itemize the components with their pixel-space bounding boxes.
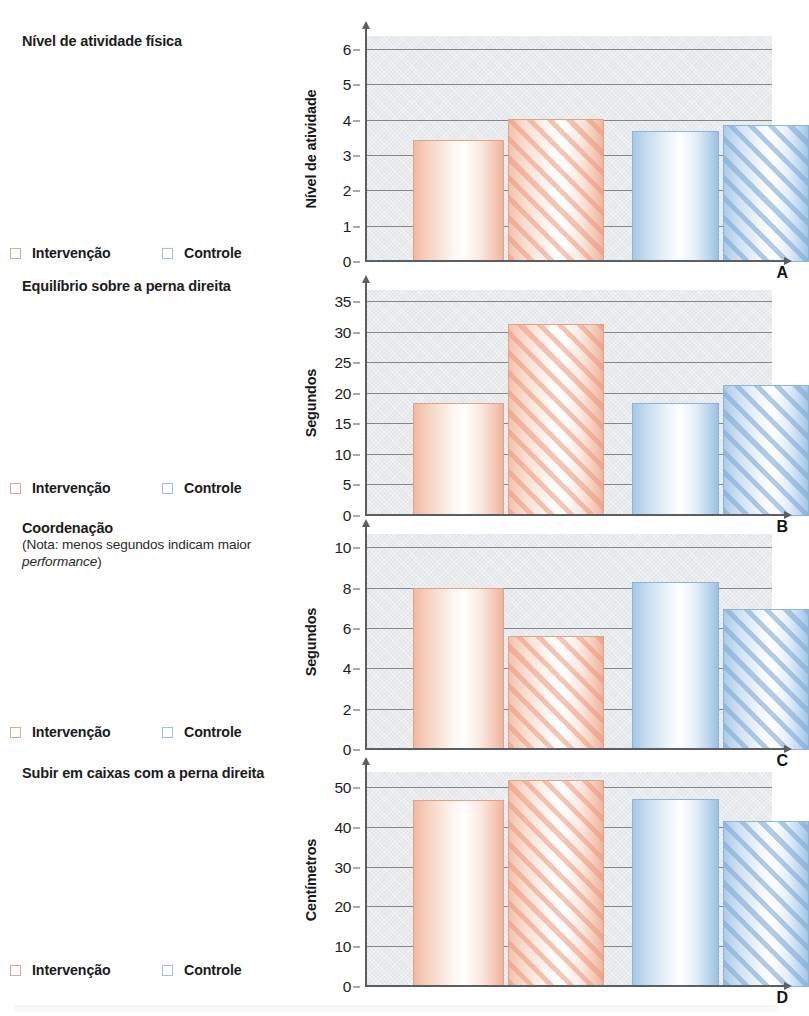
legend-a: Intervenção Controle xyxy=(10,245,300,261)
panel-title-c-text: Coordenação xyxy=(22,520,113,536)
y-tick-mark xyxy=(353,947,360,948)
y-tick-label: 35 xyxy=(335,293,351,311)
gridline xyxy=(366,84,772,85)
y-tick-mark xyxy=(353,669,360,670)
legend-swatch-intervention-icon xyxy=(10,248,21,259)
bar-intervenção-solid xyxy=(413,800,504,987)
y-tick-mark xyxy=(353,827,360,828)
legend-swatch-intervention-icon xyxy=(10,483,21,494)
y-tick-mark xyxy=(353,709,360,710)
legend-entry-control-d: Controle xyxy=(162,962,242,978)
y-axis-line xyxy=(365,27,367,262)
x-axis-line xyxy=(365,514,786,516)
legend-entry-intervention-d: Intervenção xyxy=(10,962,162,978)
bar-intervenção-solid xyxy=(413,403,504,516)
plot-area xyxy=(366,772,772,987)
panel-note-c-emphasis: performance xyxy=(22,554,97,569)
y-tick-label: 2 xyxy=(343,182,351,200)
y-tick-mark xyxy=(353,588,360,589)
y-axis-label: Segundos xyxy=(300,290,322,516)
y-tick-mark xyxy=(353,85,360,86)
chart-panel-a: Nível de atividade0123456A xyxy=(296,36,788,262)
y-tick-label: 6 xyxy=(343,620,351,638)
y-tick-label: 0 xyxy=(343,978,351,996)
y-tick-mark xyxy=(353,987,360,988)
y-tick-label: 30 xyxy=(335,859,351,877)
y-tick-mark xyxy=(353,907,360,908)
y-tick-mark xyxy=(353,628,360,629)
legend-entry-control-b: Controle xyxy=(162,480,242,496)
bar-controle-hatch xyxy=(723,125,808,262)
panel-letter-a: A xyxy=(776,264,788,282)
plot-area xyxy=(366,290,772,516)
y-tick-mark xyxy=(353,332,360,333)
legend-entry-control-a: Controle xyxy=(162,245,242,261)
y-axis-line xyxy=(365,525,367,750)
y-tick-label: 30 xyxy=(335,324,351,342)
legend-swatch-intervention-icon xyxy=(10,965,21,976)
legend-swatch-control-icon xyxy=(162,248,173,259)
legend-label-control-b: Controle xyxy=(184,480,242,496)
y-tick-mark xyxy=(353,302,360,303)
y-tick-label: 0 xyxy=(343,253,351,271)
y-tick-mark xyxy=(353,424,360,425)
panel-title-b: Equilíbrio sobre a perna direita xyxy=(22,277,290,295)
bar-intervenção-hatch xyxy=(508,636,603,750)
y-axis-line xyxy=(365,763,367,987)
y-tick-label: 40 xyxy=(335,819,351,837)
gridline xyxy=(366,49,772,50)
panel-title-a: Nível de atividade física xyxy=(22,32,290,50)
y-tick-label: 10 xyxy=(335,539,351,557)
y-axis-label: Segundos xyxy=(300,534,322,750)
panel-title-d: Subir em caixas com a perna direita xyxy=(22,764,290,782)
y-tick-label: 50 xyxy=(335,779,351,797)
legend-label-control-a: Controle xyxy=(184,245,242,261)
bar-controle-hatch xyxy=(723,609,808,750)
y-tick-label: 25 xyxy=(335,354,351,372)
y-tick-mark xyxy=(353,262,360,263)
y-tick-mark xyxy=(353,156,360,157)
y-tick-mark xyxy=(353,548,360,549)
legend-d: Intervenção Controle xyxy=(10,962,300,978)
legend-label-intervention-d: Intervenção xyxy=(32,962,111,978)
y-tick-mark xyxy=(353,867,360,868)
y-tick-label: 2 xyxy=(343,701,351,719)
y-tick-label: 10 xyxy=(335,446,351,464)
y-axis-label-text: Segundos xyxy=(303,608,319,677)
legend-label-intervention-a: Intervenção xyxy=(32,245,111,261)
y-tick-mark xyxy=(353,454,360,455)
y-tick-mark xyxy=(353,485,360,486)
labels-column: Nível de atividade física Intervenção Co… xyxy=(0,0,300,1016)
legend-b: Intervenção Controle xyxy=(10,480,300,496)
y-axis-label-text: Nível de atividade xyxy=(303,90,319,209)
y-tick-label: 4 xyxy=(343,660,351,678)
bar-controle-solid xyxy=(632,799,719,987)
y-axis-label-text: Segundos xyxy=(303,369,319,438)
y-tick-mark xyxy=(353,191,360,192)
bar-intervenção-hatch xyxy=(508,324,603,516)
y-tick-label: 8 xyxy=(343,580,351,598)
y-axis-label-text: Centímetros xyxy=(303,838,319,920)
legend-swatch-control-icon xyxy=(162,965,173,976)
y-tick-label: 4 xyxy=(343,112,351,130)
y-tick-mark xyxy=(353,363,360,364)
chart-panel-b: Segundos05101520253035B xyxy=(296,290,788,516)
legend-label-intervention-c: Intervenção xyxy=(32,724,111,740)
legend-swatch-intervention-icon xyxy=(10,727,21,738)
x-axis-line xyxy=(365,748,786,750)
legend-entry-intervention-c: Intervenção xyxy=(10,724,162,740)
panel-title-c: Coordenação (Nota: menos segundos indica… xyxy=(22,519,290,571)
legend-entry-intervention-a: Intervenção xyxy=(10,245,162,261)
plot-area xyxy=(366,534,772,750)
legend-entry-control-c: Controle xyxy=(162,724,242,740)
x-axis-line xyxy=(365,985,786,987)
legend-c: Intervenção Controle xyxy=(10,724,300,740)
bar-intervenção-solid xyxy=(413,140,504,262)
page-bottom-artifact xyxy=(14,1005,778,1014)
y-axis-ticks: 0246810 xyxy=(320,534,360,750)
y-tick-label: 3 xyxy=(343,147,351,165)
y-tick-mark xyxy=(353,516,360,517)
bar-intervenção-solid xyxy=(413,588,504,751)
y-tick-mark xyxy=(353,393,360,394)
y-axis-line xyxy=(365,281,367,516)
